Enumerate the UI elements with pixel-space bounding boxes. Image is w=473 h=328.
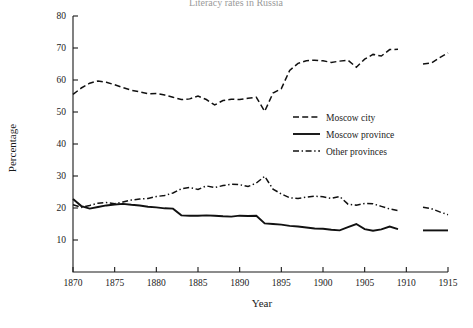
y-tick-label: 30 bbox=[57, 171, 67, 181]
series-line-moscow-city-post-gap bbox=[423, 53, 448, 64]
y-tick-label: 20 bbox=[57, 203, 67, 213]
x-axis-ticks: 1870187518801885189018951900190519101915 bbox=[64, 267, 458, 288]
y-tick-label: 70 bbox=[57, 43, 67, 53]
axis-lines bbox=[73, 16, 448, 272]
chart-container: Literacy rates in Russia 102030405060708… bbox=[0, 0, 473, 328]
x-tick-label: 1900 bbox=[314, 278, 333, 288]
x-tick-label: 1870 bbox=[64, 278, 83, 288]
series-line-moscow-city bbox=[73, 49, 398, 111]
line-chart: Literacy rates in Russia 102030405060708… bbox=[0, 0, 473, 328]
chart-title: Literacy rates in Russia bbox=[189, 0, 284, 8]
series-line-other-provinces-post-gap bbox=[423, 207, 448, 214]
x-axis-title: Year bbox=[252, 297, 273, 309]
data-series-group bbox=[73, 49, 448, 230]
x-tick-label: 1895 bbox=[272, 278, 291, 288]
legend-label-other-provinces: Other provinces bbox=[326, 147, 387, 157]
y-axis-ticks: 1020304050607080 bbox=[57, 11, 79, 245]
y-tick-label: 60 bbox=[57, 75, 67, 85]
x-tick-label: 1890 bbox=[230, 278, 249, 288]
x-tick-label: 1905 bbox=[355, 278, 374, 288]
y-axis-title: Percentage bbox=[6, 124, 18, 172]
series-line-moscow-province bbox=[73, 199, 398, 231]
x-tick-label: 1875 bbox=[105, 278, 124, 288]
series-line-other-provinces bbox=[73, 176, 398, 210]
y-tick-label: 40 bbox=[57, 139, 67, 149]
y-tick-label: 50 bbox=[57, 107, 67, 117]
x-tick-label: 1910 bbox=[397, 278, 416, 288]
legend-label-moscow-city: Moscow city bbox=[326, 113, 376, 123]
y-tick-label: 10 bbox=[57, 235, 67, 245]
y-tick-label: 80 bbox=[57, 11, 67, 21]
chart-legend: Moscow cityMoscow provinceOther province… bbox=[293, 113, 394, 157]
legend-label-moscow-province: Moscow province bbox=[326, 130, 394, 140]
x-tick-label: 1915 bbox=[439, 278, 458, 288]
x-tick-label: 1885 bbox=[189, 278, 208, 288]
x-tick-label: 1880 bbox=[147, 278, 166, 288]
